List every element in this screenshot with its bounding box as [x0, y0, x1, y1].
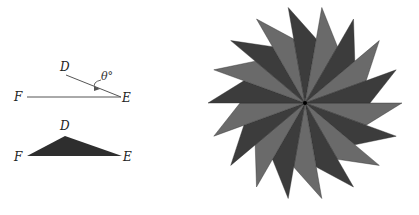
triangle-diagram: D F E: [13, 119, 132, 164]
label-d: D: [59, 60, 70, 74]
label-f: F: [13, 150, 23, 164]
label-f: F: [13, 90, 23, 104]
label-e: E: [121, 91, 131, 105]
label-e: E: [122, 150, 132, 164]
label-theta: θ°: [101, 70, 113, 83]
center-point: [303, 101, 307, 105]
triangle-def: [27, 136, 122, 156]
figure-canvas: D F E θ° D F E: [0, 0, 419, 215]
label-d: D: [59, 119, 70, 133]
angle-diagram: D F E θ°: [13, 60, 131, 105]
